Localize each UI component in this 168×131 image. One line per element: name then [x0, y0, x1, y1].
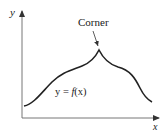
function-curve	[24, 50, 152, 106]
function-label-arg: (x)	[74, 86, 87, 98]
x-axis-label: x	[152, 121, 158, 131]
function-label-prefix: y =	[55, 86, 71, 97]
diagram-canvas: y x Corner y = f(x)	[0, 0, 168, 131]
corner-label: Corner	[78, 16, 109, 28]
corner-pointer-arrow	[93, 31, 98, 46]
y-axis-label: y	[9, 6, 15, 18]
function-label: y = f(x)	[55, 86, 87, 98]
